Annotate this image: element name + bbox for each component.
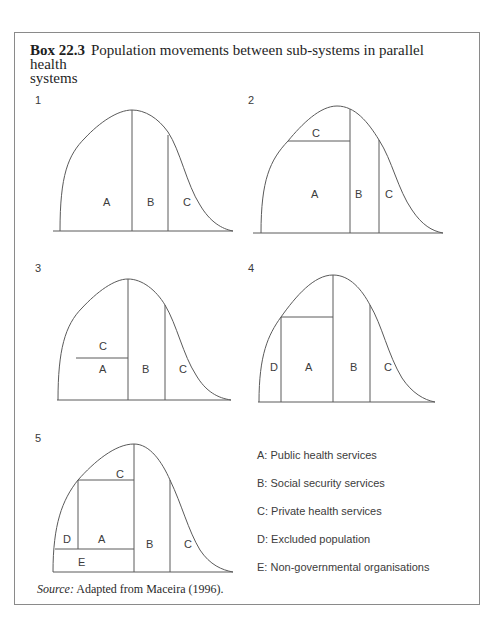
- region-label: C: [179, 363, 187, 375]
- source-label: Source:: [37, 582, 74, 596]
- diagram-2: [253, 106, 443, 233]
- source-note: Source: Adapted from Maceira (1996).: [37, 582, 224, 597]
- diagram-5: [53, 444, 233, 572]
- legend-item-b: B: Social security services: [257, 475, 429, 503]
- region-label: A: [311, 188, 319, 200]
- legend: A: Public health services B: Social secu…: [257, 447, 429, 587]
- diagram-3: [57, 279, 231, 400]
- region-label: C: [184, 538, 192, 550]
- region-label: A: [99, 363, 107, 375]
- legend-item-d: D: Excluded population: [257, 531, 429, 559]
- region-label: C: [312, 127, 320, 139]
- region-label: D: [270, 361, 278, 373]
- legend-item-e: E: Non-governmental organisations: [257, 559, 429, 587]
- region-label: B: [146, 538, 153, 550]
- legend-item-c: C: Private health services: [257, 503, 429, 531]
- region-label: B: [350, 361, 357, 373]
- region-label: C: [116, 468, 124, 480]
- distribution-curve: [53, 444, 233, 572]
- diagram-4: [258, 275, 435, 402]
- region-label: A: [98, 533, 106, 545]
- distribution-curve: [259, 275, 435, 402]
- distribution-curve: [261, 106, 443, 233]
- region-label: C: [99, 340, 107, 352]
- region-label: B: [355, 188, 362, 200]
- legend-item-a: A: Public health services: [257, 447, 429, 475]
- region-label: B: [147, 196, 154, 208]
- region-label: B: [142, 363, 149, 375]
- region-label: A: [103, 196, 111, 208]
- region-label: C: [384, 361, 392, 373]
- distribution-curve: [58, 279, 231, 400]
- source-text: Adapted from Maceira (1996).: [76, 582, 223, 596]
- region-label: C: [385, 188, 393, 200]
- region-label: C: [183, 196, 191, 208]
- region-label: A: [305, 361, 313, 373]
- distribution-curve: [60, 110, 233, 231]
- region-label: D: [63, 533, 71, 545]
- region-label: E: [78, 556, 85, 568]
- diagram-1: [53, 110, 233, 231]
